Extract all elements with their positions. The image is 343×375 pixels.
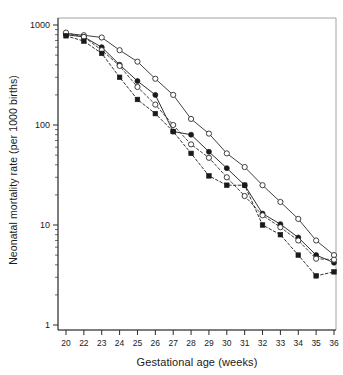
series-series-filled-circle-solid <box>64 32 337 265</box>
plot-frame <box>58 18 336 330</box>
x-tick-label: 35 <box>311 338 321 348</box>
x-tick-label: 25 <box>133 338 143 348</box>
marker-filled-square <box>82 39 87 44</box>
marker-filled-circle <box>189 132 194 137</box>
marker-filled-circle <box>224 166 229 171</box>
y-tick-label: 1000 <box>30 20 50 30</box>
plot-area: 1101001000202223242526272829303132333435… <box>0 0 343 375</box>
marker-open-circle <box>260 213 265 218</box>
marker-open-circle <box>296 238 301 243</box>
marker-filled-square <box>135 97 140 102</box>
marker-filled-square <box>171 129 176 134</box>
marker-filled-square <box>242 183 247 188</box>
marker-open-circle <box>171 122 176 127</box>
x-tick-label: 33 <box>276 338 286 348</box>
chart-figure: Neonatal mortality rate (per 1000 births… <box>0 0 343 375</box>
marker-open-circle <box>224 175 229 180</box>
x-tick-label: 36 <box>329 338 339 348</box>
x-axis-label: Gestational age (weeks) <box>58 352 336 370</box>
marker-filled-square <box>189 151 194 156</box>
marker-filled-square <box>278 232 283 237</box>
marker-filled-square <box>314 274 319 279</box>
marker-filled-square <box>225 183 230 188</box>
marker-open-circle <box>117 48 122 53</box>
marker-filled-square <box>99 51 104 56</box>
x-tick-label: 24 <box>115 338 125 348</box>
marker-open-circle <box>296 216 301 221</box>
y-tick-label: 1 <box>45 320 50 330</box>
marker-open-circle <box>188 142 193 147</box>
x-tick-label: 29 <box>204 338 214 348</box>
y-tick-label: 100 <box>35 120 50 130</box>
marker-open-circle <box>206 155 211 160</box>
x-tick-label: 28 <box>186 338 196 348</box>
marker-open-circle <box>242 164 247 169</box>
marker-open-circle <box>278 225 283 230</box>
marker-open-circle <box>135 84 140 89</box>
marker-open-circle <box>188 116 193 121</box>
x-tick-label: 34 <box>294 338 304 348</box>
marker-open-circle <box>117 63 122 68</box>
x-axis-label-text: Gestational age (weeks) <box>137 356 258 368</box>
marker-open-circle <box>260 183 265 188</box>
marker-filled-circle <box>153 92 158 97</box>
marker-open-circle <box>242 193 247 198</box>
marker-open-circle <box>206 131 211 136</box>
marker-filled-circle <box>135 79 140 84</box>
marker-open-circle <box>331 257 336 262</box>
marker-filled-circle <box>206 149 211 154</box>
series-line <box>66 33 334 260</box>
marker-open-circle <box>99 35 104 40</box>
series-series-open-circle-solid-upper <box>63 31 336 258</box>
series-line <box>66 34 334 255</box>
marker-open-circle <box>224 151 229 156</box>
x-tick-label: 31 <box>240 338 250 348</box>
marker-filled-square <box>117 75 122 80</box>
x-tick-label: 27 <box>168 338 178 348</box>
series-line <box>66 35 334 263</box>
series-series-open-circle-dashed <box>63 30 336 262</box>
x-tick-label: 32 <box>258 338 268 348</box>
marker-open-circle <box>153 102 158 107</box>
marker-open-circle <box>314 238 319 243</box>
marker-open-circle <box>153 76 158 81</box>
x-tick-label: 30 <box>222 338 232 348</box>
marker-filled-square <box>153 111 158 116</box>
y-tick-label: 10 <box>40 220 50 230</box>
series-line <box>66 36 334 276</box>
marker-open-circle <box>314 256 319 261</box>
marker-filled-square <box>296 253 301 258</box>
x-tick-label: 23 <box>97 338 107 348</box>
marker-filled-square <box>64 33 69 38</box>
marker-open-circle <box>171 92 176 97</box>
marker-filled-square <box>260 223 265 228</box>
marker-open-circle <box>278 199 283 204</box>
x-tick-label: 20 <box>61 338 71 348</box>
marker-filled-square <box>332 270 337 275</box>
marker-open-circle <box>135 59 140 64</box>
x-tick-label: 26 <box>151 338 161 348</box>
marker-filled-square <box>207 174 212 179</box>
x-tick-label: 22 <box>79 338 89 348</box>
